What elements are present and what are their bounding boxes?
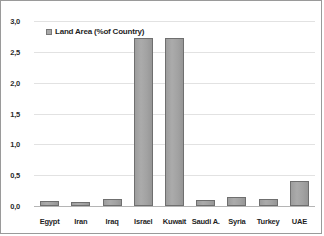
bar-slot bbox=[284, 21, 315, 206]
bar[interactable] bbox=[134, 38, 153, 206]
bar[interactable] bbox=[103, 199, 122, 206]
x-axis-tick-label: Israel bbox=[134, 217, 152, 226]
y-axis-tick-label: 2,5 bbox=[0, 47, 20, 56]
y-axis-tick-label: 2,0 bbox=[0, 78, 20, 87]
plot-area: 0,00,51,01,52,02,53,0 bbox=[34, 21, 315, 206]
x-axis-tick-label-slot: Saudi A. bbox=[190, 210, 221, 226]
x-axis-tick-label-slot: Iraq bbox=[96, 210, 127, 226]
bar[interactable] bbox=[290, 181, 309, 206]
x-axis-tick-label: Iraq bbox=[106, 217, 119, 226]
bar[interactable] bbox=[227, 197, 246, 206]
bar[interactable] bbox=[165, 38, 184, 206]
bar-slot bbox=[253, 21, 284, 206]
bar-slot bbox=[34, 21, 65, 206]
bar[interactable] bbox=[40, 201, 59, 206]
x-axis-tick-label: Syria bbox=[228, 217, 245, 226]
x-axis-tick-label: Iran bbox=[74, 217, 87, 226]
bar-slot bbox=[159, 21, 190, 206]
legend-label: Land Area (%of Country) bbox=[55, 27, 144, 36]
x-axis-tick-label-slot: Egypt bbox=[34, 210, 65, 226]
x-axis-tick-label-slot: Iran bbox=[65, 210, 96, 226]
y-axis-tick-label: 3,0 bbox=[0, 17, 20, 26]
bar-slot bbox=[128, 21, 159, 206]
bar[interactable] bbox=[71, 202, 90, 206]
y-axis-tick-label: 0,5 bbox=[0, 171, 20, 180]
x-axis-tick-label-slot: Kuwait bbox=[159, 210, 190, 226]
legend-swatch-icon bbox=[46, 29, 52, 35]
chart-legend: Land Area (%of Country) bbox=[46, 27, 144, 36]
bar-slot bbox=[65, 21, 96, 206]
x-axis-tick-label: Saudi A. bbox=[192, 217, 220, 226]
x-axis-tick-label: Turkey bbox=[257, 217, 280, 226]
x-axis-tick-label: UAE bbox=[292, 217, 307, 226]
y-axis-tick-label: 1,0 bbox=[0, 140, 20, 149]
y-axis-tick-label: 0,0 bbox=[0, 202, 20, 211]
gridline bbox=[34, 206, 315, 207]
x-axis-tick-label-slot: Syria bbox=[221, 210, 252, 226]
x-axis-tick-label-slot: Turkey bbox=[253, 210, 284, 226]
bar[interactable] bbox=[259, 199, 278, 206]
x-axis-tick-labels: EgyptIranIraqIsraelKuwaitSaudi A.SyriaTu… bbox=[34, 210, 315, 226]
x-axis-tick-label: Kuwait bbox=[163, 217, 186, 226]
chart-container: 0,00,51,01,52,02,53,0 EgyptIranIraqIsrae… bbox=[0, 0, 322, 234]
bar[interactable] bbox=[196, 200, 215, 206]
bar-slot bbox=[96, 21, 127, 206]
bar-slot bbox=[221, 21, 252, 206]
bars-group bbox=[34, 21, 315, 206]
x-axis-tick-label: Egypt bbox=[40, 217, 60, 226]
bar-slot bbox=[190, 21, 221, 206]
x-axis-tick-label-slot: Israel bbox=[128, 210, 159, 226]
y-axis-tick-label: 1,5 bbox=[0, 109, 20, 118]
x-axis-tick-label-slot: UAE bbox=[284, 210, 315, 226]
